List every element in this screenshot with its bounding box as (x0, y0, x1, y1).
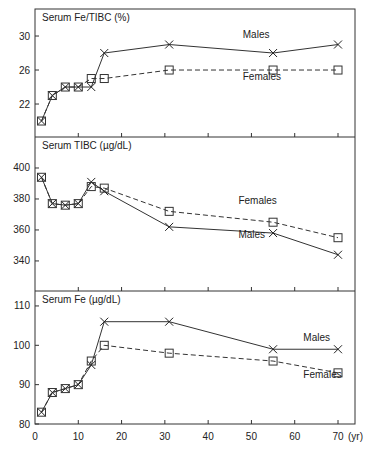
y-tick-label: 100 (13, 340, 30, 351)
series-line-males (41, 322, 338, 413)
y-tick-label: 22 (19, 99, 31, 110)
y-tick-label: 80 (19, 419, 31, 430)
series-label-females: Females (243, 71, 281, 82)
y-tick-label: 400 (13, 162, 30, 173)
x-tick-label: 40 (203, 431, 215, 442)
y-tick-label: 90 (19, 379, 31, 390)
series-label-males: Males (243, 29, 270, 40)
x-marker (87, 178, 95, 186)
series-line-females (41, 177, 338, 237)
series-label-females: Females (238, 195, 276, 206)
chart: Serum Fe/TIBC (%)222630MalesFemalesSerum… (0, 0, 373, 451)
y-tick-label: 110 (14, 300, 30, 311)
panel-2: Serum TIBC (µg/dL)340360380400FemalesMal… (13, 137, 355, 291)
plot-frame (35, 9, 355, 424)
y-tick-label: 26 (19, 65, 31, 76)
x-marker (48, 389, 56, 397)
x-tick-label: 10 (73, 431, 85, 442)
series-line-males (41, 177, 338, 254)
x-tick-label: 50 (246, 431, 258, 442)
x-marker (334, 251, 342, 259)
y-tick-label: 340 (13, 255, 30, 266)
x-tick-label: 30 (159, 431, 171, 442)
x-tick-label: 60 (289, 431, 301, 442)
series-label-females: Females (303, 369, 341, 380)
panel-1: Serum Fe/TIBC (%)222630MalesFemales (19, 12, 342, 137)
y-tick-label: 30 (19, 31, 31, 42)
panel-title: Serum Fe/TIBC (%) (42, 12, 130, 23)
series-line-females (41, 345, 338, 412)
series-label-males: Males (303, 332, 330, 343)
series-line-females (41, 70, 338, 121)
panel-3: Serum Fe (µg/dL)8090100110MalesFemales (13, 291, 355, 430)
series-label-males: Males (238, 229, 265, 240)
panel-title: Serum TIBC (µg/dL) (42, 140, 132, 151)
x-unit-label: (yr) (348, 431, 363, 442)
x-tick-label: 0 (32, 431, 38, 442)
x-tick-label: 70 (332, 431, 344, 442)
series-line-males (41, 45, 338, 121)
y-tick-label: 360 (13, 224, 30, 235)
x-tick-label: 20 (116, 431, 128, 442)
panel-title: Serum Fe (µg/dL) (42, 294, 121, 305)
y-tick-label: 380 (13, 193, 30, 204)
